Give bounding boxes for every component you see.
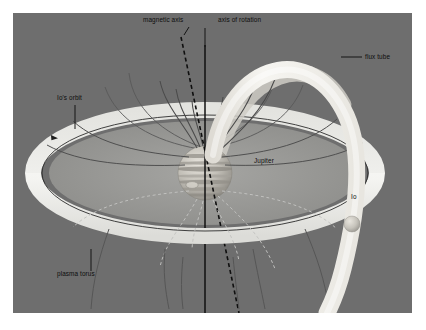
label-jupiter: Jupiter <box>254 158 274 164</box>
label-io: Io <box>351 194 357 200</box>
figure-root: magnetic axis axis of rotation flux tube… <box>0 0 426 330</box>
label-magnetic-axis: magnetic axis <box>143 17 183 23</box>
label-plasma-torus: plasma torus <box>57 271 95 277</box>
io-moon <box>344 216 360 232</box>
great-red-spot <box>186 182 198 189</box>
label-ios-orbit: Io's orbit <box>57 95 82 101</box>
magnetosphere-illustration <box>13 13 412 313</box>
label-axis-of-rotation: axis of rotation <box>218 17 261 23</box>
diagram-panel: magnetic axis axis of rotation flux tube… <box>13 13 412 313</box>
label-flux-tube: flux tube <box>365 54 390 60</box>
